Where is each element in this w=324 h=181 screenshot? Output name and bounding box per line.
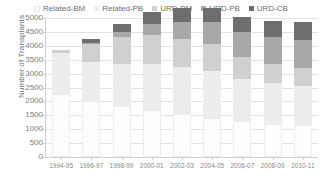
x-tick-label: 1996-97 <box>76 162 106 170</box>
y-tick-label: 500 <box>3 139 43 147</box>
plot-area <box>46 18 318 157</box>
bar-segment[interactable] <box>233 17 251 32</box>
legend-swatch-icon <box>249 6 254 11</box>
x-tick-label: 2006-07 <box>227 162 257 170</box>
x-tick-mark <box>212 158 213 160</box>
bar-segment[interactable] <box>82 101 100 157</box>
x-tick-label: 2000-01 <box>137 162 167 170</box>
bar-segment[interactable] <box>233 32 251 57</box>
y-tick-label: 4500 <box>3 28 43 36</box>
bar-segment[interactable] <box>113 37 131 63</box>
x-tick-label: 2008-09 <box>258 162 288 170</box>
y-tick-label: 1000 <box>3 125 43 133</box>
bar-segment[interactable] <box>173 67 191 114</box>
bar-segment[interactable] <box>294 40 312 68</box>
bar-segment[interactable] <box>143 12 161 24</box>
bar-segment[interactable] <box>203 44 221 70</box>
bar-segment[interactable] <box>173 8 191 21</box>
bar-stack[interactable] <box>264 21 282 157</box>
bar-segment[interactable] <box>143 64 161 110</box>
bar-stack[interactable] <box>52 50 70 157</box>
bar-segment[interactable] <box>143 110 161 157</box>
bar-segment[interactable] <box>294 86 312 125</box>
legend-item-related-pb: Related-PB <box>94 4 143 13</box>
x-tick-mark <box>303 158 304 160</box>
x-tick-label: 2002-03 <box>167 162 197 170</box>
x-tick-label: 1998-99 <box>106 162 136 170</box>
y-tick-label: 3000 <box>3 70 43 78</box>
legend-swatch-icon <box>152 6 157 11</box>
bar-segment[interactable] <box>173 114 191 157</box>
bar-stack[interactable] <box>203 8 221 157</box>
bar-stack[interactable] <box>294 22 312 157</box>
legend-item-urd-cb: URD-CB <box>249 4 288 13</box>
y-tick-label: 0 <box>3 153 43 161</box>
legend-label: URD-CB <box>257 4 288 13</box>
bar-segment[interactable] <box>173 39 191 67</box>
y-tick-label: 4000 <box>3 42 43 50</box>
x-tick-label: 2010-11 <box>288 162 318 170</box>
stacked-bar-chart: Related-BM Related-PB URD-BM URD-PB URD-… <box>0 0 324 181</box>
bar-segment[interactable] <box>52 53 70 94</box>
x-tick-mark <box>122 158 123 160</box>
x-axis-ticks: 1994-951996-971998-992000-012002-032004-… <box>46 158 318 176</box>
legend-label: Related-BM <box>43 4 85 13</box>
y-tick-label: 5000 <box>3 14 43 22</box>
bar-segment[interactable] <box>203 8 221 22</box>
legend-swatch-icon <box>34 6 40 12</box>
legend-swatch-icon <box>94 6 99 11</box>
x-tick-mark <box>91 158 92 160</box>
bar-segment[interactable] <box>113 24 131 33</box>
y-tick-label: 1500 <box>3 111 43 119</box>
bar-segment[interactable] <box>52 94 70 157</box>
y-tick-label: 2000 <box>3 97 43 105</box>
y-tick-label: 3500 <box>3 56 43 64</box>
bar-stack[interactable] <box>82 39 100 157</box>
bar-segment[interactable] <box>82 44 100 62</box>
bar-segment[interactable] <box>233 57 251 79</box>
y-tick-label: 2500 <box>3 84 43 92</box>
x-tick-mark <box>61 158 62 160</box>
legend-label: Related-PB <box>102 4 143 13</box>
bar-segment[interactable] <box>82 62 100 101</box>
bar-segment[interactable] <box>264 83 282 123</box>
x-tick-mark <box>152 158 153 160</box>
bar-segment[interactable] <box>294 125 312 157</box>
x-tick-label: 1994-95 <box>46 162 76 170</box>
x-tick-mark <box>273 158 274 160</box>
bar-segment[interactable] <box>203 118 221 157</box>
legend-item-related-bm: Related-BM <box>34 4 85 13</box>
bar-segment[interactable] <box>203 71 221 118</box>
bar-segment[interactable] <box>233 121 251 157</box>
bar-segment[interactable] <box>203 22 221 44</box>
bar-segment[interactable] <box>173 22 191 39</box>
bar-segment[interactable] <box>264 124 282 157</box>
x-tick-label: 2004-05 <box>197 162 227 170</box>
bar-segment[interactable] <box>264 21 282 38</box>
bar-segment[interactable] <box>233 79 251 121</box>
bar-segment[interactable] <box>143 24 161 35</box>
bar-segment[interactable] <box>294 22 312 40</box>
bar-segment[interactable] <box>264 64 282 83</box>
bar-segment[interactable] <box>113 64 131 106</box>
y-axis-ticks: 5000450040003500300025002000150010005000 <box>0 18 43 157</box>
bar-stack[interactable] <box>143 12 161 157</box>
bar-segment[interactable] <box>294 68 312 86</box>
x-tick-mark <box>242 158 243 160</box>
x-tick-mark <box>182 158 183 160</box>
bar-stack[interactable] <box>113 24 131 157</box>
bar-segment[interactable] <box>113 106 131 157</box>
bar-segment[interactable] <box>143 35 161 64</box>
bar-stack[interactable] <box>173 8 191 157</box>
bar-segment[interactable] <box>264 37 282 63</box>
bar-stack[interactable] <box>233 17 251 157</box>
